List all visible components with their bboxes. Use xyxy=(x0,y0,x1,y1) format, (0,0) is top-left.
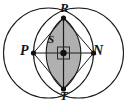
point-label-S: S xyxy=(48,34,54,45)
point-label-N: N xyxy=(93,44,103,58)
point-dot-S xyxy=(60,50,66,56)
point-label-R: R xyxy=(60,1,69,14)
point-dot-R xyxy=(61,15,66,20)
point-dot-P xyxy=(31,50,36,55)
geometry-figure: R T P N S xyxy=(0,0,127,104)
point-label-P: P xyxy=(20,44,29,58)
point-label-T: T xyxy=(60,89,68,102)
